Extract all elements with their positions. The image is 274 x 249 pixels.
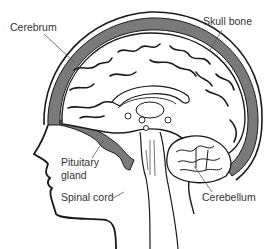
thalamus	[136, 102, 164, 118]
label-cerebrum: Cerebrum	[10, 21, 57, 33]
brain-diagram	[0, 0, 274, 249]
label-pituitary-gland-line1: Pituitary	[61, 156, 99, 168]
label-cerebellum: Cerebellum	[202, 191, 256, 203]
label-spinal-cord: Spinal cord	[61, 191, 114, 203]
label-pituitary-gland-line2: gland	[61, 169, 87, 181]
label-skull-bone: Skull bone	[203, 15, 252, 27]
